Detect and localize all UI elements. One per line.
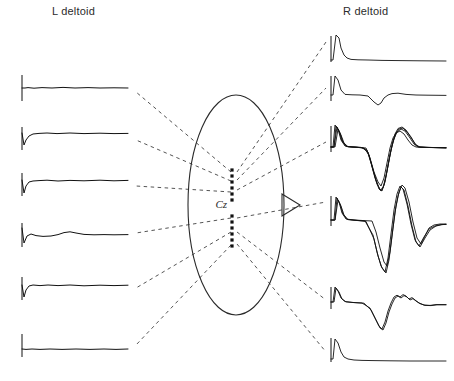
right-deltoid-trace-sweep — [331, 339, 446, 361]
dashed-link-group — [136, 42, 326, 352]
head-schematic — [188, 95, 300, 315]
electrode-site-dot — [230, 198, 233, 201]
dashed-link-to-left-trace — [136, 245, 231, 345]
right-deltoid-trace-sweep — [331, 35, 446, 61]
electrode-site-dot — [230, 238, 233, 241]
left-deltoid-trace — [22, 87, 128, 88]
left-deltoid-trace — [22, 133, 128, 145]
left-deltoid-trace — [22, 285, 128, 297]
right-deltoid-trace-sweep — [331, 128, 446, 191]
dashed-link-to-left-trace — [136, 218, 231, 233]
right-deltoid-trace-sweep — [331, 287, 446, 329]
electrode-site-column — [230, 168, 233, 247]
electrode-site-dot — [230, 226, 233, 229]
cz-site-label: Cz — [215, 198, 227, 210]
electrode-site-dot — [230, 214, 233, 217]
head-outline-ellipse — [188, 95, 284, 315]
figure-canvas: Cz — [0, 0, 454, 381]
dashed-link-to-right-trace — [237, 42, 326, 172]
right-deltoid-trace-sweep — [331, 126, 446, 191]
right-deltoid-trace-group — [331, 35, 446, 362]
electrode-site-dot — [230, 186, 233, 189]
electrode-site-dot — [230, 174, 233, 177]
dashed-link-to-left-trace — [136, 186, 231, 192]
right-deltoid-trace-sweep — [331, 127, 446, 190]
mep-scalp-map-figure: L deltoid R deltoid Cz — [0, 0, 454, 381]
electrode-site-dot — [230, 232, 233, 235]
left-deltoid-trace — [22, 180, 128, 193]
electrode-site-dot — [230, 168, 233, 171]
electrode-site-dot — [230, 220, 233, 223]
electrode-site-dot — [230, 192, 233, 195]
electrode-site-dot — [230, 244, 233, 247]
electrode-site-dot — [230, 180, 233, 183]
dashed-link-to-right-trace — [237, 244, 326, 352]
right-deltoid-trace-sweep — [331, 125, 446, 186]
left-deltoid-trace — [22, 228, 128, 243]
left-deltoid-trace-group — [22, 75, 128, 357]
nose-marker-triangle — [282, 194, 300, 216]
dashed-link-to-left-trace — [136, 232, 231, 288]
right-deltoid-trace-sweep — [331, 76, 446, 105]
dashed-link-to-left-trace — [136, 140, 231, 181]
